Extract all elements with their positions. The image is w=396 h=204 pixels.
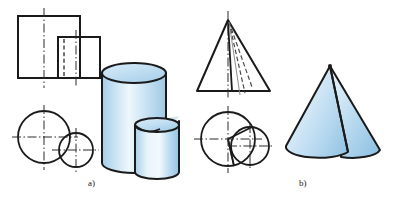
big-cylinder-top-ellipse [102,63,166,83]
cone-apex-point [328,64,332,68]
part-a-front-view [18,8,100,88]
technical-drawing-svg [0,0,396,204]
figure-page: a) b) [0,0,396,204]
front-view-large-rectangle [18,16,80,78]
part-b-top-view [194,106,274,173]
part-b-front-view [197,11,270,99]
top-view-sector-chord [232,157,234,166]
part-a-top-view [12,105,99,172]
part-a-pictorial-cylinders [102,63,179,179]
caption-part-a: a) [88,178,95,188]
part-b-pictorial-cones [286,64,380,158]
caption-part-b: b) [299,178,307,188]
small-cylinder-body [135,125,179,179]
front-view-cone-triangle [197,20,270,91]
